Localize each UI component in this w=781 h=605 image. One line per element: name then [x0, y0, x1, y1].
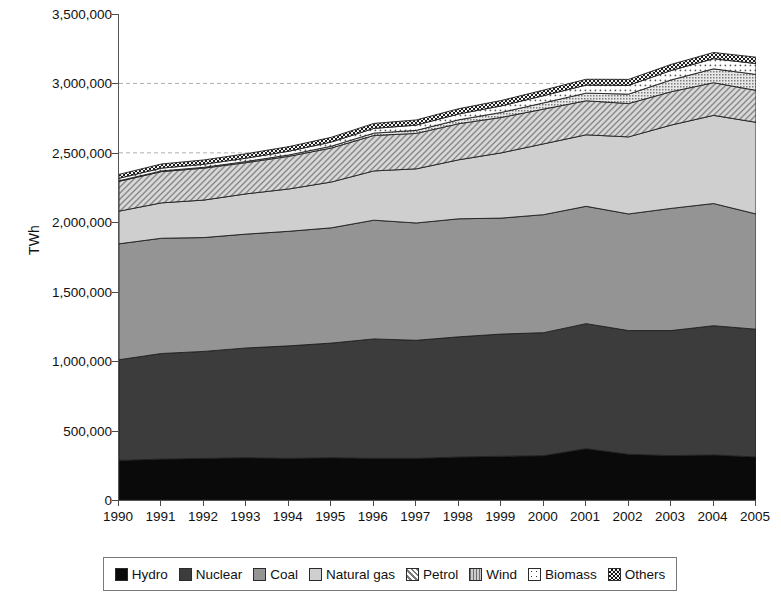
y-axis-tick-label: 2,000,000 — [20, 215, 112, 230]
legend-item-nuclear[interactable]: Nuclear — [179, 567, 243, 582]
x-axis-tick-label: 1998 — [435, 509, 481, 524]
y-axis-tick-label: 3,000,000 — [20, 76, 112, 91]
chart-figure: TWh 0500,0001,000,0001,500,0002,000,0002… — [0, 0, 781, 605]
y-axis-tick-label: 2,500,000 — [20, 145, 112, 160]
x-axis-tick-mark — [755, 500, 756, 506]
x-axis-tick-label: 2004 — [690, 509, 736, 524]
y-axis-tick-mark — [112, 14, 118, 15]
x-axis-tick-mark — [415, 500, 416, 506]
x-axis-tick-label: 1995 — [307, 509, 353, 524]
stacked-area-svg — [119, 14, 756, 500]
legend-item-petrol[interactable]: Petrol — [406, 567, 458, 582]
y-axis-tick-label: 1,000,000 — [20, 354, 112, 369]
legend-swatch-icon — [179, 568, 192, 581]
y-axis-tick-label: 0 — [20, 493, 112, 508]
x-axis-tick-label: 1999 — [477, 509, 523, 524]
x-axis-tick-mark — [330, 500, 331, 506]
x-axis-tick-mark — [118, 500, 119, 506]
legend-item-natural-gas[interactable]: Natural gas — [309, 567, 395, 582]
legend-label: Biomass — [545, 567, 597, 582]
legend-items: HydroNuclearCoalNatural gasPetrolWindBio… — [107, 567, 674, 582]
x-axis-tick-label: 1990 — [95, 509, 141, 524]
x-axis-tick-label: 1992 — [180, 509, 226, 524]
chart-legend: HydroNuclearCoalNatural gasPetrolWindBio… — [103, 557, 677, 591]
legend-item-others[interactable]: Others — [608, 567, 666, 582]
x-axis-tick-mark — [628, 500, 629, 506]
x-axis-tick-mark — [585, 500, 586, 506]
legend-swatch-icon — [469, 568, 482, 581]
x-axis-tick-mark — [203, 500, 204, 506]
x-axis-tick-mark — [160, 500, 161, 506]
x-axis-tick-mark — [288, 500, 289, 506]
legend-label: Petrol — [423, 567, 458, 582]
plot-area — [118, 14, 756, 501]
y-axis-tick-label: 3,500,000 — [20, 7, 112, 22]
x-axis-tick-mark — [373, 500, 374, 506]
legend-swatch-icon — [528, 568, 541, 581]
legend-label: Wind — [486, 567, 517, 582]
x-axis-tick-label: 2001 — [562, 509, 608, 524]
x-axis-tick-label: 1994 — [265, 509, 311, 524]
x-axis-tick-label: 2002 — [605, 509, 651, 524]
y-axis-tick-mark — [112, 292, 118, 293]
x-axis-tick-label: 2005 — [732, 509, 778, 524]
legend-item-hydro[interactable]: Hydro — [115, 567, 168, 582]
y-axis-tick-mark — [112, 431, 118, 432]
x-axis-tick-mark — [500, 500, 501, 506]
x-axis-tick-mark — [670, 500, 671, 506]
legend-label: Coal — [270, 567, 298, 582]
legend-swatch-icon — [253, 568, 266, 581]
x-axis-tick-mark — [543, 500, 544, 506]
y-axis-tick-mark — [112, 222, 118, 223]
x-axis-tick-label: 1996 — [350, 509, 396, 524]
x-axis-tick-label: 1993 — [222, 509, 268, 524]
legend-item-biomass[interactable]: Biomass — [528, 567, 597, 582]
legend-swatch-icon — [309, 568, 322, 581]
legend-label: Others — [625, 567, 666, 582]
legend-item-wind[interactable]: Wind — [469, 567, 517, 582]
y-axis-tick-mark — [112, 361, 118, 362]
x-axis-tick-mark — [713, 500, 714, 506]
y-axis-tick-mark — [112, 83, 118, 84]
x-axis-tick-label: 1991 — [137, 509, 183, 524]
legend-swatch-icon — [608, 568, 621, 581]
legend-item-coal[interactable]: Coal — [253, 567, 298, 582]
legend-label: Natural gas — [326, 567, 395, 582]
legend-label: Hydro — [132, 567, 168, 582]
legend-swatch-icon — [115, 568, 128, 581]
legend-label: Nuclear — [196, 567, 243, 582]
x-axis-tick-label: 2000 — [520, 509, 566, 524]
legend-swatch-icon — [406, 568, 419, 581]
y-axis-tick-mark — [112, 153, 118, 154]
x-axis-tick-mark — [245, 500, 246, 506]
x-axis-tick-label: 1997 — [392, 509, 438, 524]
y-axis-tick-label: 1,500,000 — [20, 284, 112, 299]
x-axis-tick-label: 2003 — [647, 509, 693, 524]
y-axis-tick-label: 500,000 — [20, 423, 112, 438]
x-axis-tick-mark — [458, 500, 459, 506]
